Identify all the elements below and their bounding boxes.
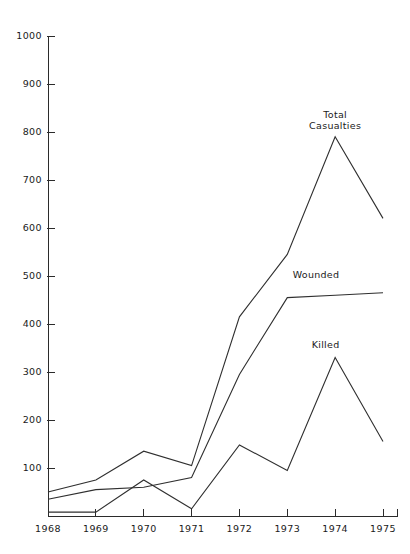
y-tick-label: 400 bbox=[23, 318, 42, 329]
series-line-wounded bbox=[48, 293, 383, 499]
annotation-killed: Killed bbox=[312, 339, 340, 350]
x-tick-label: 1970 bbox=[131, 523, 157, 534]
x-tick-label: 1974 bbox=[322, 523, 348, 534]
annotation-wounded: Wounded bbox=[293, 269, 340, 280]
annotation-text: Total bbox=[322, 109, 347, 120]
y-tick-label: 500 bbox=[23, 270, 42, 281]
x-tick-label: 1971 bbox=[179, 523, 205, 534]
x-axis-tick-labels: 19681969197019711972197319741975 bbox=[35, 523, 396, 534]
annotation-text: Killed bbox=[312, 339, 340, 350]
x-tick-label: 1968 bbox=[35, 523, 61, 534]
chart-plot-area: 1002003004005006007008009001000 19681969… bbox=[0, 0, 410, 554]
x-axis: 19681969197019711972197319741975 bbox=[35, 509, 397, 534]
y-tick-label: 900 bbox=[23, 78, 42, 89]
annotation-text: Casualties bbox=[309, 120, 361, 131]
y-tick-label: 300 bbox=[23, 366, 42, 377]
y-tick-label: 1000 bbox=[16, 30, 42, 41]
annotation-total-casualties: TotalCasualties bbox=[309, 109, 361, 132]
y-axis-tick-labels: 1002003004005006007008009001000 bbox=[16, 30, 42, 473]
y-tick-label: 100 bbox=[23, 462, 42, 473]
y-tick-label: 800 bbox=[23, 126, 42, 137]
y-tick-label: 600 bbox=[23, 222, 42, 233]
y-tick-label: 700 bbox=[23, 174, 42, 185]
x-tick-label: 1975 bbox=[370, 523, 396, 534]
series-annotations: TotalCasualtiesWoundedKilled bbox=[293, 109, 362, 350]
series-line-total-casualties bbox=[48, 137, 383, 492]
x-tick-label: 1972 bbox=[227, 523, 253, 534]
y-axis: 1002003004005006007008009001000 bbox=[16, 30, 55, 516]
annotation-text: Wounded bbox=[293, 269, 340, 280]
x-tick-label: 1969 bbox=[83, 523, 109, 534]
y-tick-label: 200 bbox=[23, 414, 42, 425]
data-series-lines bbox=[48, 137, 383, 512]
casualties-line-chart: 1002003004005006007008009001000 19681969… bbox=[0, 0, 410, 554]
x-tick-label: 1973 bbox=[274, 523, 300, 534]
